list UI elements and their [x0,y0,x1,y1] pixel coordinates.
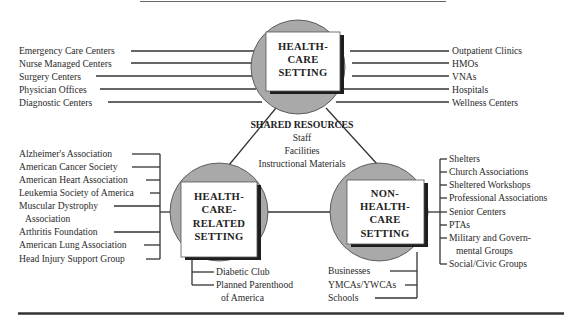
list-item: Leukemia Society of America [19,187,135,198]
list-item: HMOs [452,58,478,69]
list-item: American Lung Association [19,239,127,250]
list-item: Military and Govern- [449,232,531,243]
node-title: HEALTH- [278,41,328,52]
list-item: Alzheimer's Association [19,148,112,159]
health-care-right-items: Outpatient Clinics HMOs VNAs Hospitals W… [452,45,522,108]
node-title: HEALTH- [360,201,410,212]
list-item: mental Groups [456,245,513,256]
shared-resources-heading: SHARED RESOURCES [250,119,354,130]
node-title: RELATED [193,218,246,229]
diagram-canvas: HEALTH- CARE SETTING HEALTH- CARE- RELAT… [0,0,582,326]
list-item: American Cancer Society [19,161,118,172]
node-title: CARE [287,54,318,65]
list-item: Shelters [449,153,480,164]
shared-resource-item: Facilities [284,145,319,156]
list-item: Physician Offices [19,84,87,95]
health-care-right-connectors [336,51,449,102]
list-item: Wellness Centers [452,97,518,108]
list-item: Outpatient Clinics [452,45,522,56]
list-item: Nurse Managed Centers [19,58,112,69]
list-item: PTAs [449,219,470,230]
health-care-related-bottom-items: Diabetic Club Planned Parenthood of Amer… [216,266,293,303]
list-item: Diabetic Club [216,266,270,277]
list-item: Emergency Care Centers [19,45,115,56]
list-item: VNAs [452,71,477,82]
list-item: YMCAs/YWCAs [328,279,396,290]
list-item: Schools [328,292,359,303]
list-item: Sheltered Workshops [449,179,531,190]
health-care-related-bottom-bracket [192,257,214,285]
list-item: Muscular Dystrophy [19,200,98,211]
list-item: Hospitals [452,84,489,95]
node-title: SETTING [278,67,327,78]
list-item: Businesses [328,265,370,276]
health-care-left-connectors [96,51,262,102]
node-title: CARE [369,214,400,225]
list-item: Planned Parenthood [216,279,293,290]
list-item: Senior Centers [449,206,506,217]
shared-resource-item: Instructional Materials [258,158,345,169]
list-item: Arthritis Foundation [19,226,98,237]
list-item: Surgery Centers [19,71,81,82]
node-title: CARE- [201,204,236,215]
non-health-care-right-items: Shelters Church Associations Sheltered W… [449,153,548,269]
list-item: Head Injury Support Group [19,253,125,264]
list-item: American Heart Association [19,174,128,185]
node-title: SETTING [194,231,243,242]
list-item: Social/Civic Groups [449,258,527,269]
node-title: HEALTH- [194,191,244,202]
node-health-care-setting: HEALTH- CARE SETTING [251,20,345,114]
node-title: SETTING [360,228,409,239]
node-title: NON- [371,188,399,199]
non-health-care-right-bracket [428,159,447,264]
shared-resource-item: Staff [293,132,312,143]
list-item: Diagnostic Centers [19,97,93,108]
shared-resources: SHARED RESOURCES Staff Facilities Instru… [250,119,354,169]
node-non-health-care-setting: NON- HEALTH- CARE SETTING [330,163,428,261]
node-health-care-related-setting: HEALTH- CARE- RELATED SETTING [170,163,268,261]
list-item: Association [25,213,71,224]
list-item: of America [221,292,265,303]
list-item: Professional Associations [449,192,548,203]
list-item: Church Associations [449,166,528,177]
non-health-care-bottom-items: Businesses YMCAs/YWCAs Schools [328,265,396,303]
